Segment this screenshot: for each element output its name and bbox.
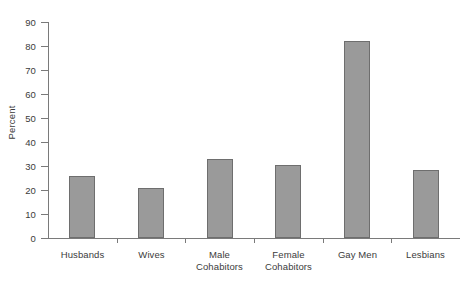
x-axis-category-label-line: Gay Men <box>338 249 377 260</box>
x-tick-mark <box>323 238 324 243</box>
x-axis-category-label: Husbands <box>48 249 117 261</box>
x-axis-category-label-line: Cohabitors <box>254 261 323 273</box>
bar <box>69 176 95 238</box>
y-tick-mark <box>41 22 48 23</box>
x-axis-category-label: MaleCohabitors <box>185 249 254 272</box>
y-tick-label: 10 <box>10 209 36 220</box>
x-tick-mark <box>254 238 255 243</box>
y-tick-label: 60 <box>10 89 36 100</box>
y-tick-mark <box>41 190 48 191</box>
y-tick-label: 90 <box>10 17 36 28</box>
bar <box>207 159 233 238</box>
y-tick-label: 70 <box>10 65 36 76</box>
y-tick-label: 0 <box>10 233 36 244</box>
x-tick-mark <box>117 238 118 243</box>
y-tick-mark <box>41 118 48 119</box>
y-tick-mark <box>41 166 48 167</box>
x-axis-category-label-line: Female <box>272 249 304 260</box>
x-axis-category-label-line: Male <box>209 249 230 260</box>
y-tick-label: 20 <box>10 185 36 196</box>
y-tick-label: 80 <box>10 41 36 52</box>
y-tick-label: 50 <box>10 113 36 124</box>
y-tick-mark <box>41 214 48 215</box>
x-tick-mark <box>391 238 392 243</box>
y-tick-mark <box>41 94 48 95</box>
y-tick-mark <box>41 142 48 143</box>
y-tick-mark <box>41 238 48 239</box>
x-axis-category-label-line: Lesbians <box>406 249 445 260</box>
y-tick-label: 30 <box>10 161 36 172</box>
x-axis-category-label: FemaleCohabitors <box>254 249 323 272</box>
y-tick-label: 40 <box>10 137 36 148</box>
x-tick-mark <box>185 238 186 243</box>
bar <box>344 41 370 238</box>
x-axis-category-label: Wives <box>117 249 186 261</box>
x-axis-category-label-line: Husbands <box>61 249 105 260</box>
x-axis-category-label-line: Wives <box>138 249 164 260</box>
y-tick-mark <box>41 70 48 71</box>
x-axis-category-label: Lesbians <box>391 249 460 261</box>
bar <box>138 188 164 238</box>
bar-chart: Percent 0102030405060708090 HusbandsWive… <box>0 0 472 282</box>
x-axis-category-label: Gay Men <box>323 249 392 261</box>
y-tick-mark <box>41 46 48 47</box>
bar <box>275 165 301 238</box>
bar <box>413 170 439 238</box>
y-axis-line <box>48 22 49 239</box>
x-axis-category-label-line: Cohabitors <box>185 261 254 273</box>
